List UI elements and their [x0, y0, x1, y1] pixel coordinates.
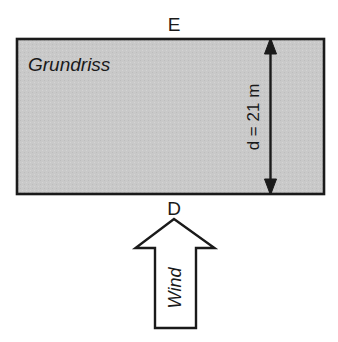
diagram-root: E Grundriss d = 21 m D Wind [0, 0, 338, 342]
wind-arrow-group: Wind [136, 219, 215, 328]
edge-label-top: E [168, 14, 181, 35]
edge-label-bottom: D [167, 198, 181, 219]
dimension-label: d = 21 m [244, 84, 263, 151]
floor-plan-label: Grundriss [28, 54, 111, 75]
diagram-canvas: E Grundriss d = 21 m D Wind [0, 0, 338, 342]
wind-label: Wind [165, 267, 185, 309]
